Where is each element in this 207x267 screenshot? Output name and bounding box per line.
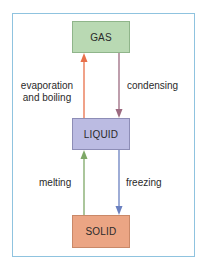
melting-arrow [81,150,88,215]
evaporation-label-line2: and boiling [16,92,78,104]
evaporation-arrow [81,53,88,118]
gas-label: GAS [90,32,112,43]
solid-state-box: SOLID [72,215,130,248]
condensing-arrow [116,53,123,118]
freezing-arrow [116,150,123,215]
evaporation-label-line1: evaporation [16,80,78,92]
melting-label: melting [39,177,71,189]
freezing-label: freezing [126,177,162,189]
liquid-state-box: LIQUID [72,118,130,150]
evaporation-label: evaporation and boiling [16,80,78,104]
solid-label: SOLID [85,226,116,237]
liquid-label: LIQUID [84,129,119,140]
condensing-label: condensing [127,80,178,92]
gas-state-box: GAS [72,21,130,53]
